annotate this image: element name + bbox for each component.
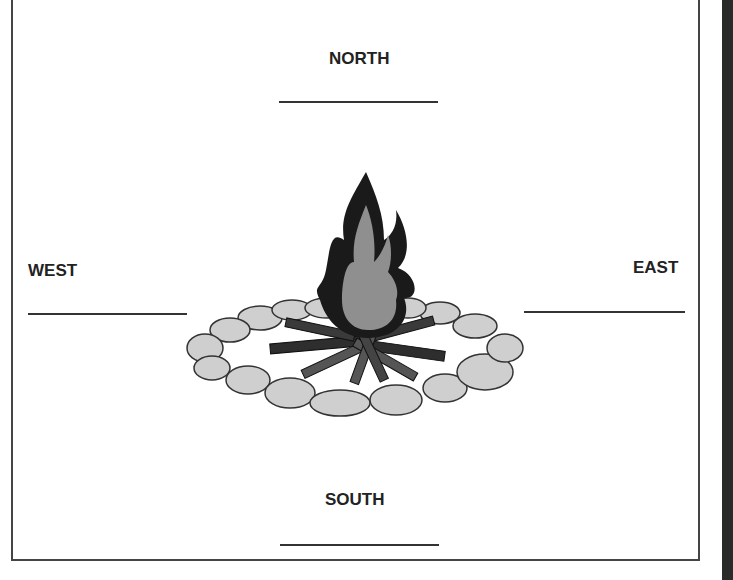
campfire-icon [0, 0, 733, 580]
